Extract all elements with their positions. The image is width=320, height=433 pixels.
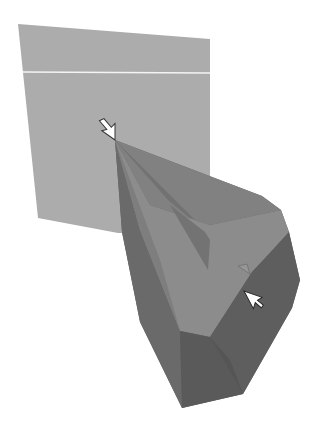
figure-canvas <box>0 0 320 433</box>
polyhedron-solid[interactable] <box>115 140 300 408</box>
panel-divider-line <box>22 72 210 73</box>
